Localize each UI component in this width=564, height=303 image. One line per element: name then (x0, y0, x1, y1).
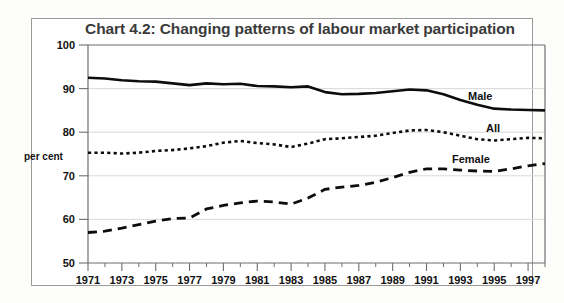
y-tick-label: 50 (63, 257, 75, 269)
series-line-all (88, 130, 545, 154)
x-tick-label: 1973 (110, 274, 134, 286)
y-tick-label: 80 (63, 126, 75, 138)
x-tick-labels: 1971197319751977197919811983198519871989… (76, 274, 541, 286)
y-tick-label: 100 (57, 39, 75, 51)
x-tick-label: 1997 (516, 274, 540, 286)
y-tick-label: 90 (63, 83, 75, 95)
chart-figure: Chart 4.2: Changing patterns of labour m… (0, 0, 564, 303)
series-label-male: Male (468, 90, 492, 102)
x-tick-label: 1981 (245, 274, 269, 286)
x-tick-label: 1993 (448, 274, 472, 286)
y-axis-title: per cent (24, 151, 64, 162)
x-tick-label: 1989 (380, 274, 404, 286)
x-tick-label: 1979 (211, 274, 235, 286)
x-tick-label: 1977 (177, 274, 201, 286)
x-tick-label: 1985 (313, 274, 337, 286)
x-tick-label: 1971 (76, 274, 100, 286)
series-label-female: Female (452, 153, 490, 165)
series-line-female (88, 164, 545, 233)
x-tick-label: 1983 (279, 274, 303, 286)
series-label-all: All (486, 122, 500, 134)
chart-plot-area: 5060708090100 19711973197519771979198119… (0, 0, 564, 303)
x-tick-label: 1975 (143, 274, 167, 286)
x-tick-label: 1995 (482, 274, 506, 286)
y-tick-label: 70 (63, 170, 75, 182)
x-tick-label: 1987 (347, 274, 371, 286)
x-tick-label: 1991 (414, 274, 438, 286)
y-tick-label: 60 (63, 213, 75, 225)
